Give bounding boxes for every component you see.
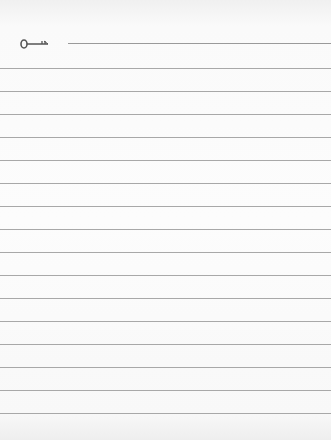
ruled-line: [0, 206, 331, 207]
ruled-line: [0, 229, 331, 230]
lined-paper: [0, 0, 331, 440]
ruled-line: [0, 298, 331, 299]
ruled-line: [0, 91, 331, 92]
ruled-line: [0, 413, 331, 414]
ruled-line: [0, 160, 331, 161]
ruled-line: [0, 390, 331, 391]
ruled-line: [0, 183, 331, 184]
ruled-line: [0, 321, 331, 322]
ruled-line: [0, 114, 331, 115]
key-icon: [20, 38, 52, 50]
title-line: [68, 43, 331, 44]
ruled-line: [0, 344, 331, 345]
ruled-line: [0, 275, 331, 276]
ruled-line: [0, 367, 331, 368]
ruled-line: [0, 68, 331, 69]
ruled-line: [0, 252, 331, 253]
ruled-line: [0, 137, 331, 138]
